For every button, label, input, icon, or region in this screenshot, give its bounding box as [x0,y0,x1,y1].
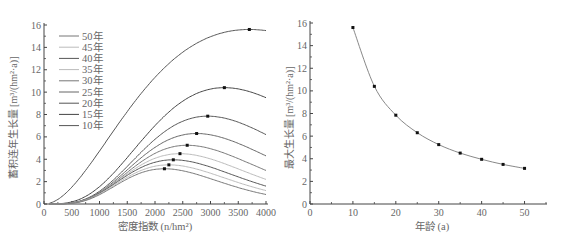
legend-label: 30年 [82,74,103,86]
y-tick-label: 4 [302,153,307,164]
data-point [523,167,526,170]
y-tick-label: 16 [31,20,41,31]
x-tick-label: 10 [348,207,358,218]
data-point [480,158,483,161]
x-tick-label: 2500 [173,207,193,218]
legend-label: 50年 [82,30,103,42]
peak-marker [206,115,209,118]
y-tick-label: 16 [297,18,307,29]
x-tick-label: 20 [391,207,401,218]
x-axis-label: 年龄 (a) [415,220,450,233]
x-tick-label: 50 [520,207,530,218]
legend-label: 35年 [82,63,103,75]
y-tick-label: 4 [36,154,41,165]
data-point [416,131,419,134]
y-tick-label: 12 [31,64,41,75]
legend-label: 20年 [82,97,103,109]
data-point [351,26,354,29]
peak-marker [163,167,166,170]
x-tick-label: 3000 [201,207,221,218]
right-chart-age-vs-max-growth: 024681012141601020304050最大生长量 [m³/(hm²·a… [283,18,547,234]
peak-marker [172,158,175,161]
y-tick-label: 2 [302,176,307,187]
peak-marker [178,152,181,155]
data-point [373,85,376,88]
data-point [459,152,462,155]
y-axis-label: 最大生长量 [m³/(hm²·a)] [283,67,296,170]
x-tick-label: 30 [434,207,444,218]
x-tick-label: 0 [308,207,313,218]
x-tick-label: 40 [477,207,487,218]
x-tick-label: 500 [64,207,79,218]
legend-label: 45年 [82,41,103,53]
legend-label: 40年 [82,52,103,64]
y-tick-label: 6 [36,131,41,142]
x-tick-label: 0 [42,207,47,218]
left-chart-density-vs-growth: 0246810121416050010001500200025003000350… [7,20,276,234]
legend: 50年45年40年35年30年25年20年15年10年 [59,30,103,132]
x-tick-label: 3500 [228,207,248,218]
y-tick-label: 0 [302,199,307,210]
y-tick-label: 10 [297,85,307,96]
legend-label: 10年 [82,119,103,131]
data-point [502,163,505,166]
x-tick-label: 4000 [256,207,276,218]
x-axis-label: 密度指数 (n/hm²) [118,220,193,233]
y-tick-label: 8 [36,109,41,120]
data-point [394,114,397,117]
y-tick-label: 8 [302,108,307,119]
y-tick-label: 10 [31,87,41,98]
peak-marker [223,86,226,89]
y-tick-label: 0 [36,199,41,210]
peak-marker [167,163,170,166]
x-tick-label: 1500 [117,207,137,218]
peak-marker [186,144,189,147]
y-tick-label: 12 [297,63,307,74]
legend-label: 15年 [82,108,103,120]
y-tick-label: 6 [302,131,307,142]
peak-marker [195,132,198,135]
x-tick-label: 2000 [145,207,165,218]
max-growth-line [353,28,525,169]
y-tick-label: 2 [36,176,41,187]
peak-marker [248,28,251,31]
legend-label: 25年 [82,86,103,98]
curve-40年 [50,160,267,204]
y-axis-label: 蓄积连年生长量 [m³/(hm²·a)] [7,57,20,180]
x-tick-label: 1000 [90,207,110,218]
y-tick-label: 14 [297,40,307,51]
data-point [437,143,440,146]
figure: 0246810121416050010001500200025003000350… [0,0,561,247]
y-tick-label: 14 [31,42,41,53]
